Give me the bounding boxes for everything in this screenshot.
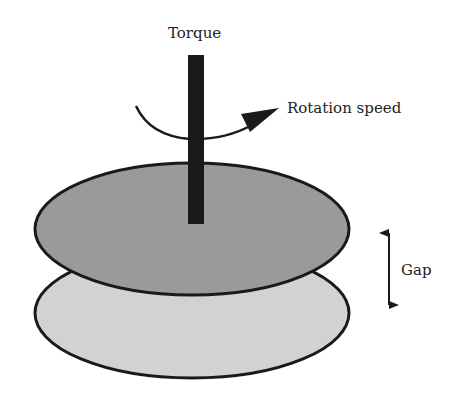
shaft: [188, 55, 204, 224]
rotation-speed-label: Rotation speed: [287, 99, 402, 117]
gap-label: Gap: [401, 261, 432, 279]
torque-label: Torque: [168, 24, 221, 42]
rheometer-diagram: Torque Rotation speed Gap: [0, 0, 457, 395]
